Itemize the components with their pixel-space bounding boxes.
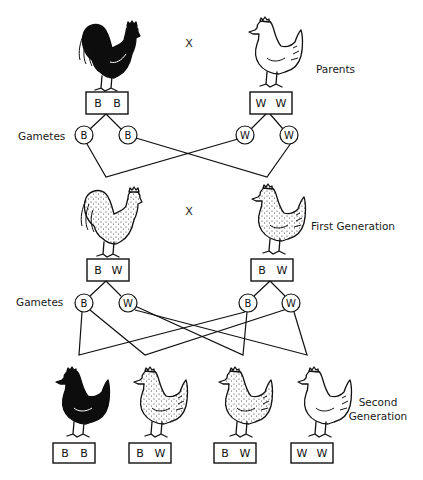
white-hen-icon — [298, 367, 352, 437]
genotype-box: W W — [291, 443, 333, 463]
svg-text:B: B — [125, 130, 132, 141]
cross-symbol: X — [185, 205, 193, 218]
svg-text:B: B — [80, 447, 88, 460]
gamete-circle: W — [282, 294, 300, 312]
gamete-circle: B — [119, 126, 137, 144]
genotype-box: B W — [214, 443, 256, 463]
second-generation-label-line1: Second — [359, 396, 398, 408]
gametes-label: Gametes — [16, 296, 63, 308]
svg-text:B: B — [61, 447, 69, 460]
gametes-label: Gametes — [18, 130, 65, 142]
gamete-circle: B — [75, 126, 93, 144]
svg-text:W: W — [317, 447, 328, 460]
cross-symbol: X — [185, 37, 193, 50]
black-hen-icon — [56, 367, 110, 437]
black-rooster-icon — [79, 21, 140, 91]
genotype-box: B W — [251, 259, 293, 281]
svg-text:W: W — [112, 264, 123, 277]
svg-text:W: W — [240, 447, 251, 460]
svg-text:B: B — [221, 447, 229, 460]
gamete-circle: W — [236, 126, 254, 144]
svg-text:W: W — [297, 447, 308, 460]
parents-label: Parents — [316, 63, 355, 75]
svg-text:B: B — [245, 298, 252, 309]
svg-text:W: W — [256, 97, 267, 110]
svg-text:W: W — [240, 130, 250, 141]
svg-text:W: W — [155, 447, 166, 460]
svg-text:B: B — [81, 298, 88, 309]
svg-text:W: W — [284, 130, 294, 141]
svg-text:B: B — [136, 447, 144, 460]
genotype-box: B W — [129, 443, 171, 463]
speckled-hen-icon — [219, 367, 273, 437]
svg-text:W: W — [276, 97, 287, 110]
speckled-rooster-icon — [81, 187, 142, 257]
svg-text:B: B — [113, 97, 121, 110]
genotype-box: W W — [250, 92, 292, 114]
svg-text:B: B — [94, 264, 102, 277]
svg-text:W: W — [286, 298, 296, 309]
second-generation-label-line2: Generation — [349, 410, 408, 422]
genotype-box: B B — [86, 92, 128, 114]
genotype-box: B W — [87, 259, 129, 281]
gamete-circle: W — [119, 294, 137, 312]
speckled-hen-icon — [134, 367, 188, 437]
svg-text:W: W — [277, 264, 288, 277]
gamete-circle: B — [75, 294, 93, 312]
inheritance-diagram: Parents First Generation Second Generati… — [0, 0, 423, 480]
first-generation-label: First Generation — [311, 220, 395, 232]
gamete-circle: B — [239, 294, 257, 312]
speckled-hen-icon — [252, 184, 306, 254]
gamete-circle: W — [280, 126, 298, 144]
svg-text:B: B — [81, 130, 88, 141]
svg-text:B: B — [258, 264, 266, 277]
genotype-box: B B — [53, 443, 95, 463]
svg-text:W: W — [123, 298, 133, 309]
white-hen-icon — [249, 17, 303, 87]
svg-text:B: B — [94, 97, 102, 110]
